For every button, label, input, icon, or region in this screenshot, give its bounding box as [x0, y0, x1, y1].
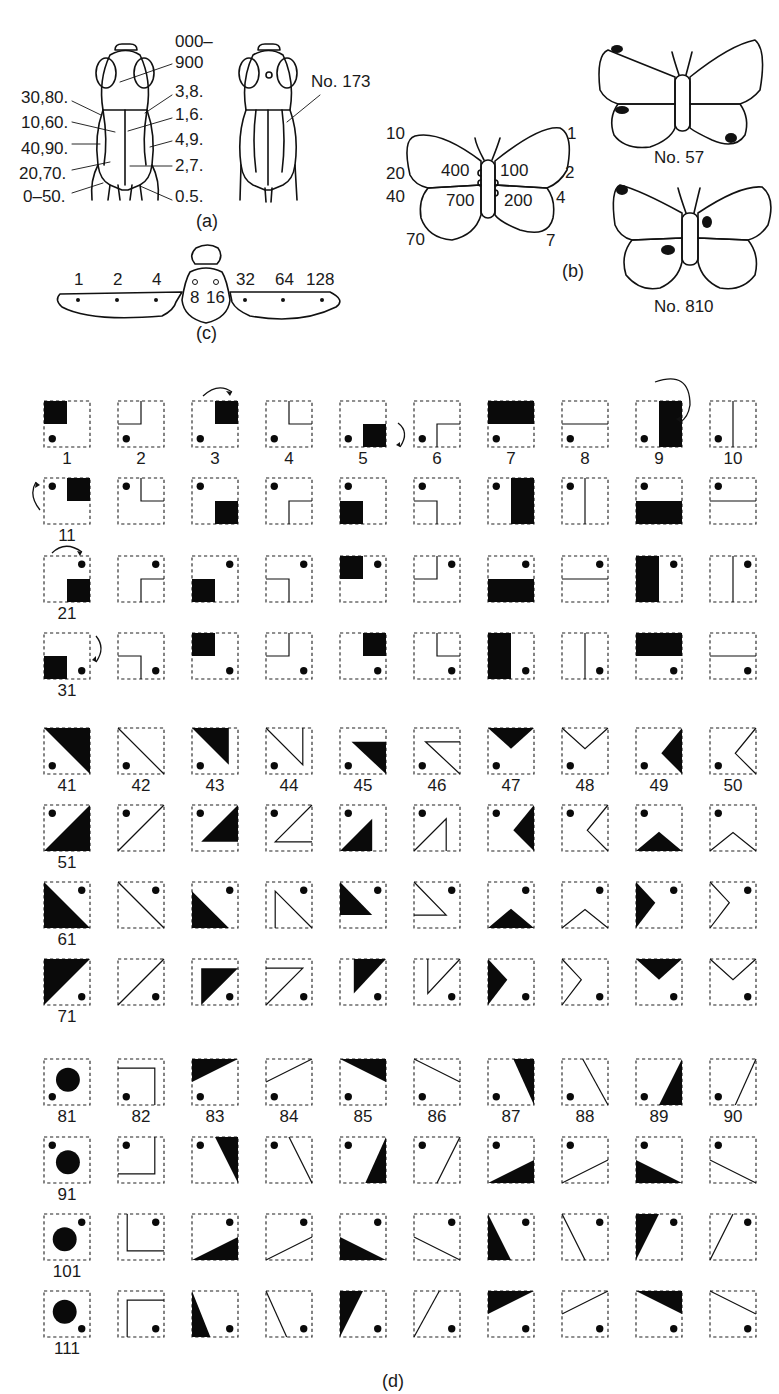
- glyph-number-41: 41: [37, 777, 97, 794]
- glyph-number-42: 42: [111, 777, 171, 794]
- glyph-17: [488, 478, 534, 524]
- insect-binary-diagram: [0, 0, 779, 340]
- glyph-117: [488, 1291, 534, 1337]
- glyph-18: [562, 478, 608, 524]
- arrow-rotate-21-icon: [52, 546, 82, 553]
- glyph-47: [488, 728, 534, 774]
- glyph-30: [710, 556, 756, 602]
- glyph-38: [562, 633, 608, 679]
- arrow-rotate-11-icon: [33, 482, 40, 510]
- glyph-44: [266, 728, 312, 774]
- glyph-93: [192, 1137, 238, 1183]
- glyph-number-5: 5: [333, 450, 393, 467]
- glyph-number-91: 91: [37, 1186, 97, 1203]
- glyph-94: [266, 1137, 312, 1183]
- glyph-48: [562, 728, 608, 774]
- glyph-99: [636, 1137, 682, 1183]
- glyph-23: [192, 556, 238, 602]
- glyph-15: [340, 478, 386, 524]
- glyph-58: [562, 805, 608, 851]
- glyph-34: [266, 633, 312, 679]
- glyph-number-4: 4: [259, 450, 319, 467]
- glyph-108: [562, 1214, 608, 1260]
- glyph-31: [44, 633, 90, 679]
- glyph-number-90: 90: [703, 1108, 763, 1125]
- glyph-22: [118, 556, 164, 602]
- glyph-number-86: 86: [407, 1108, 467, 1125]
- glyph-115: [340, 1291, 386, 1337]
- glyph-25: [340, 556, 386, 602]
- glyph-84: [266, 1059, 312, 1105]
- caption-c: (c): [196, 324, 217, 342]
- glyph-2: [118, 401, 164, 447]
- glyph-28: [562, 556, 608, 602]
- caption-d: (d): [382, 1372, 404, 1390]
- glyph-66: [414, 882, 460, 928]
- glyph-27: [488, 556, 534, 602]
- glyph-102: [118, 1214, 164, 1260]
- glyph-number-111: 111: [37, 1340, 97, 1357]
- arrow-rotate-3-icon: [203, 388, 232, 396]
- glyph-number-10: 10: [703, 450, 763, 467]
- glyph-72: [118, 959, 164, 1005]
- glyph-46: [414, 728, 460, 774]
- glyph-number-87: 87: [481, 1108, 541, 1125]
- glyph-number-47: 47: [481, 777, 541, 794]
- glyph-number-1: 1: [37, 450, 97, 467]
- glyph-80: [710, 959, 756, 1005]
- glyph-79: [636, 959, 682, 1005]
- label-c-1: 1: [74, 271, 83, 288]
- glyph-number-88: 88: [555, 1108, 615, 1125]
- glyph-43: [192, 728, 238, 774]
- glyph-26: [414, 556, 460, 602]
- glyph-5: [340, 401, 386, 447]
- glyph-number-31: 31: [37, 682, 97, 699]
- glyph-62: [118, 882, 164, 928]
- label-c-64: 64: [275, 271, 294, 288]
- glyph-53: [192, 805, 238, 851]
- glyph-number-51: 51: [37, 854, 97, 871]
- glyph-24: [266, 556, 312, 602]
- glyph-number-43: 43: [185, 777, 245, 794]
- glyph-67: [488, 882, 534, 928]
- glyph-number-45: 45: [333, 777, 393, 794]
- glyph-number-50: 50: [703, 777, 763, 794]
- glyph-78: [562, 959, 608, 1005]
- glyph-number-49: 49: [629, 777, 689, 794]
- glyph-32: [118, 633, 164, 679]
- arrow-rotate-31-icon: [96, 636, 101, 662]
- label-c-32: 32: [236, 271, 255, 288]
- glyph-number-21: 21: [37, 605, 97, 622]
- glyph-16: [414, 478, 460, 524]
- glyph-40: [710, 633, 756, 679]
- glyph-92: [118, 1137, 164, 1183]
- glyph-90: [710, 1059, 756, 1105]
- glyph-33: [192, 633, 238, 679]
- glyph-91: [44, 1137, 90, 1183]
- glyph-104: [266, 1214, 312, 1260]
- glyph-3: [192, 401, 238, 447]
- glyph-55: [340, 805, 386, 851]
- glyph-54: [266, 805, 312, 851]
- glyph-98: [562, 1137, 608, 1183]
- glyph-12: [118, 478, 164, 524]
- glyph-60: [710, 805, 756, 851]
- glyph-number-83: 83: [185, 1108, 245, 1125]
- glyph-29: [636, 556, 682, 602]
- glyph-105: [340, 1214, 386, 1260]
- glyph-70: [710, 882, 756, 928]
- glyph-19: [636, 478, 682, 524]
- glyph-103: [192, 1214, 238, 1260]
- glyph-39: [636, 633, 682, 679]
- glyph-number-81: 81: [37, 1108, 97, 1125]
- glyph-113: [192, 1291, 238, 1337]
- glyph-41: [44, 728, 90, 774]
- glyph-100: [710, 1137, 756, 1183]
- glyph-68: [562, 882, 608, 928]
- glyph-89: [636, 1059, 682, 1105]
- glyph-51: [44, 805, 90, 851]
- glyph-88: [562, 1059, 608, 1105]
- glyph-7: [488, 401, 534, 447]
- glyph-119: [636, 1291, 682, 1337]
- glyph-107: [488, 1214, 534, 1260]
